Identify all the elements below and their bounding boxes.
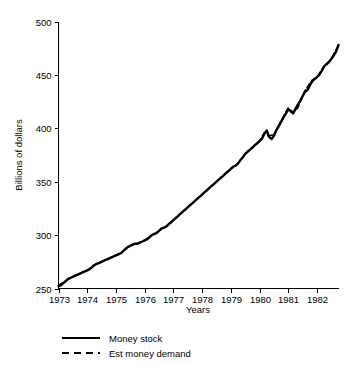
chart-figure: 250300350400450500 197319741975197619771… [0,0,352,365]
y-tick-label: 400 [36,123,52,134]
x-tick-label: 1979 [221,294,242,305]
x-axis-tick-labels: 1973197419751976197719781979198019811982 [49,294,328,305]
series-line-money-stock [59,45,339,286]
x-tick-label: 1975 [106,294,127,305]
y-axis-ticks [55,23,59,290]
legend-label-money-stock: Money stock [109,333,163,344]
x-tick-label: 1981 [278,294,299,305]
x-tick-label: 1974 [77,294,98,305]
x-tick-label: 1978 [192,294,213,305]
legend-label-est-money-demand: Est money demand [109,348,191,359]
x-tick-label: 1976 [135,294,156,305]
y-tick-label: 350 [36,177,52,188]
x-axis-ticks [60,289,318,293]
y-tick-label: 450 [36,70,52,81]
x-axis-title: Years [186,304,210,315]
x-tick-label: 1977 [163,294,184,305]
y-tick-label: 500 [36,17,52,28]
y-tick-label: 300 [36,230,52,241]
series-group [59,45,339,286]
x-tick-label: 1973 [49,294,70,305]
chart-legend: Money stockEst money demand [62,333,191,359]
x-tick-label: 1982 [307,294,328,305]
series-line-est-money-demand [59,45,339,285]
y-axis-tick-labels: 250300350400450500 [36,17,52,295]
x-tick-label: 1980 [250,294,271,305]
line-chart: 250300350400450500 197319741975197619771… [0,0,352,365]
y-axis-title: Billions of dollars [13,119,24,191]
